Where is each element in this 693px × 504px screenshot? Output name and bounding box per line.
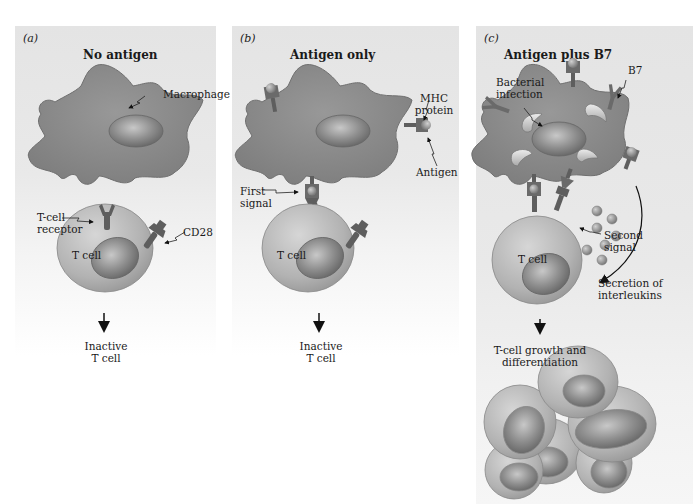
outcome-line-1: Inactive xyxy=(85,340,128,352)
outcome-line-2: T cell xyxy=(91,352,120,364)
outcome-label: Inactive T cell xyxy=(81,340,131,364)
t-cell-label: T cell xyxy=(518,253,547,265)
mhc-line-1: MHC xyxy=(420,92,448,104)
cd28-label: CD28 xyxy=(183,226,213,238)
bacterial-infection-label-2: infection xyxy=(496,88,543,100)
proliferated-t-cells xyxy=(484,346,656,499)
mhc-antigen-complex-right xyxy=(404,118,431,132)
macrophage-label: Macrophage xyxy=(163,88,230,100)
first-signal-label-2: signal xyxy=(240,197,272,209)
outcome-line-2: T cell xyxy=(306,352,335,364)
outcome-label: Inactive T cell xyxy=(296,340,346,364)
second-signal-label-2: signal xyxy=(604,241,636,253)
t-cell-label: T cell xyxy=(277,249,306,261)
macrophage-illustration xyxy=(15,26,216,356)
macrophage-nucleus xyxy=(316,115,370,147)
outcome-line-1: T-cell growth and xyxy=(494,344,586,356)
macrophage-illustration xyxy=(232,26,459,356)
outcome-line-1: Inactive xyxy=(300,340,343,352)
panel-no-antigen: (a) No antigen Macrophage T-cell recepto… xyxy=(15,26,216,356)
t-cell-label: T cell xyxy=(72,249,101,261)
mhc-protein-label: MHC protein xyxy=(410,92,458,116)
outcome-label: T-cell growth and differentiation xyxy=(480,344,600,368)
panel-antigen-only: (b) Antigen only xyxy=(232,26,459,356)
secretion-label: Secretion of xyxy=(598,277,663,289)
t-cell-receptor-label-2: receptor xyxy=(37,223,83,235)
second-signal-label: Second xyxy=(604,229,643,241)
outcome-line-2: differentiation xyxy=(502,356,578,368)
bacterial-infection-label: Bacterial xyxy=(496,76,544,88)
secretion-label-2: interleukins xyxy=(598,289,662,301)
b7-label: B7 xyxy=(628,64,642,76)
mhc-line-2: protein xyxy=(415,104,454,116)
macrophage-nucleus xyxy=(109,115,163,147)
macrophage-nucleus xyxy=(532,122,586,156)
first-signal-label: First xyxy=(240,185,265,197)
panel-antigen-plus-b7: (c) Antigen plus B7 xyxy=(476,26,693,504)
antigen-label: Antigen xyxy=(416,166,458,178)
t-cell-receptor-label: T-cell xyxy=(37,211,65,223)
